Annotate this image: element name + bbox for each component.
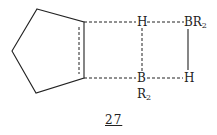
atom-h-bottom: H xyxy=(184,72,194,84)
atom-br2-subscript: 2 xyxy=(202,21,207,30)
atom-br2-element: BR xyxy=(184,15,202,29)
atom-r2-bottom: R2 xyxy=(137,88,151,102)
atom-br2-top: BR2 xyxy=(184,16,207,30)
atom-r2-element: R xyxy=(137,87,146,101)
cyclopentene-ring xyxy=(12,9,84,93)
compound-label: 27 xyxy=(105,114,122,126)
chemical-diagram: H BR2 B R2 H 27 xyxy=(0,0,217,135)
atom-b-bottom: B xyxy=(137,72,146,84)
atom-h-top: H xyxy=(137,16,147,28)
atom-r2-subscript: 2 xyxy=(146,93,151,102)
